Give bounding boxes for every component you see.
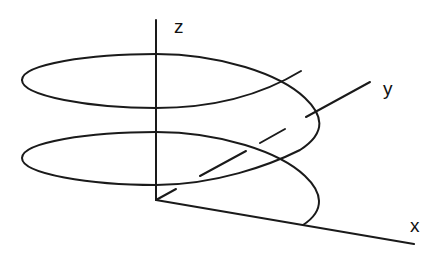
helix-upper-front-arc bbox=[22, 71, 301, 108]
helix-upper-back-arc bbox=[22, 54, 319, 185]
x-axis bbox=[156, 200, 414, 244]
helix-lower-arc bbox=[22, 132, 319, 225]
z-axis-label: z bbox=[174, 17, 184, 36]
helix-diagram bbox=[0, 0, 440, 259]
x-axis-label: x bbox=[410, 216, 420, 235]
y-axis-label: y bbox=[383, 79, 393, 98]
